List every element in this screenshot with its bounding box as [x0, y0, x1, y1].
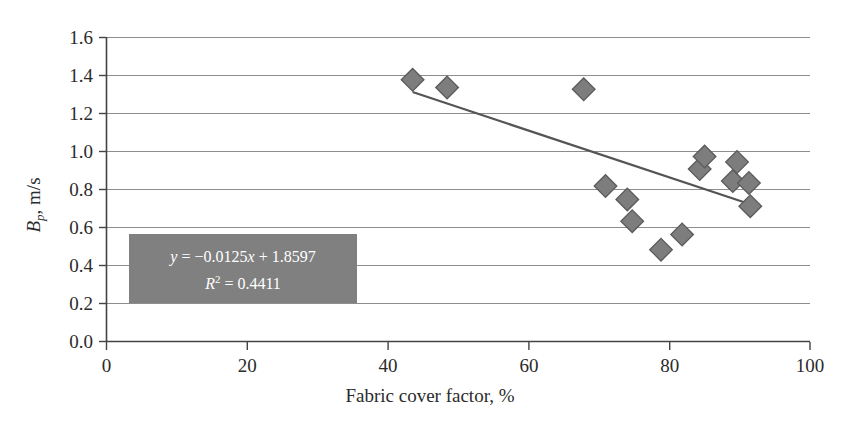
y-axis-title-units: , m/s [23, 177, 44, 214]
x-tick-label: 20 [238, 355, 257, 376]
y-tick-label: 1.0 [69, 141, 93, 162]
equation-intercept: 1.8597 [272, 248, 316, 265]
equation-slope: −0.0125 [194, 248, 247, 265]
x-tick-label: 40 [379, 355, 398, 376]
y-axis-title: Bp, m/s [23, 177, 47, 232]
y-tick-label: 0.6 [69, 217, 93, 238]
y-axis-title-symbol: B [23, 221, 44, 233]
x-tick-label: 100 [796, 355, 825, 376]
equation-x: x [247, 248, 255, 265]
y-tick-label: 1.4 [69, 65, 93, 86]
y-tick-label: 0.0 [69, 331, 93, 352]
chart-background [0, 0, 858, 423]
equation-equals: = [177, 248, 194, 265]
y-tick-label: 1.2 [69, 103, 93, 124]
equation-plus: + [255, 248, 272, 265]
y-tick-label: 1.6 [69, 27, 93, 48]
x-axis-title: Fabric cover factor, % [345, 385, 514, 406]
chart-canvas: 1.6 1.4 1.2 1.0 0.8 0.6 0.4 0.2 0.0 0 20… [0, 0, 858, 423]
annotation-background [129, 234, 357, 303]
r-squared-value: = 0.4411 [220, 275, 280, 292]
regression-annotation: y = −0.0125x + 1.8597 R2 = 0.4411 [129, 234, 357, 303]
y-tick-label: 0.2 [69, 293, 93, 314]
x-tick-label: 60 [519, 355, 538, 376]
y-tick-label: 0.4 [69, 255, 93, 276]
svg-text:Bp, m/s: Bp, m/s [23, 177, 47, 232]
y-tick-label: 0.8 [69, 179, 93, 200]
y-tick-labels: 1.6 1.4 1.2 1.0 0.8 0.6 0.4 0.2 0.0 [69, 27, 93, 352]
x-tick-label: 80 [660, 355, 679, 376]
scatter-chart: 1.6 1.4 1.2 1.0 0.8 0.6 0.4 0.2 0.0 0 20… [0, 0, 858, 423]
regression-equation: y = −0.0125x + 1.8597 [168, 248, 315, 266]
r-squared-symbol: R [204, 275, 215, 292]
x-tick-label: 0 [102, 355, 112, 376]
